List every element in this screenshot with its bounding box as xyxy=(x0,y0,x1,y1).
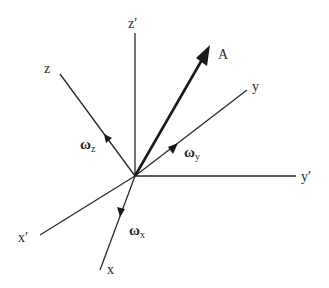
rotating-frame-diagram: z′ z y y′ x′ x A ωz ωy ωx xyxy=(0,0,329,288)
vector-a-arrowhead-icon xyxy=(196,45,210,66)
y-prime-axis-label: y′ xyxy=(301,169,311,184)
omega-x-subscript: x xyxy=(140,229,145,240)
z-axis xyxy=(60,74,135,176)
x-prime-axis-label: x′ xyxy=(18,230,28,245)
x-prime-axis xyxy=(40,176,135,235)
vector-a-label: A xyxy=(218,47,229,62)
omega-z-arrow-icon xyxy=(104,134,112,143)
omega-y-label: ωy xyxy=(184,144,200,162)
omega-z-symbol: ω xyxy=(80,136,91,152)
omega-y-symbol: ω xyxy=(184,144,195,160)
omega-x-symbol: ω xyxy=(129,222,140,238)
omega-z-label: ωz xyxy=(80,136,96,154)
x-axis-label: x xyxy=(107,262,114,277)
z-prime-axis-label: z′ xyxy=(128,16,137,31)
z-axis-label: z xyxy=(44,61,50,76)
omega-x-arrow-icon xyxy=(117,207,125,217)
y-axis-label: y xyxy=(252,79,259,94)
omega-y-arrow-icon xyxy=(168,143,178,154)
omega-z-subscript: z xyxy=(91,143,96,154)
y-axis xyxy=(135,90,247,176)
omega-x-label: ωx xyxy=(129,222,145,240)
omega-y-subscript: y xyxy=(195,151,200,162)
